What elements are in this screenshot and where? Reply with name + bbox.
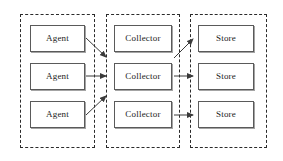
node-store-1-label: Store xyxy=(216,34,236,43)
node-store-1[interactable]: Store xyxy=(198,25,254,52)
node-agent-1-label: Agent xyxy=(46,34,69,43)
node-collector-3[interactable]: Collector xyxy=(114,101,172,128)
diagram-canvas: Agent Agent Agent Collector Collector Co… xyxy=(0,0,283,161)
node-store-2-label: Store xyxy=(216,72,236,81)
node-agent-3-label: Agent xyxy=(46,110,69,119)
node-collector-2-label: Collector xyxy=(125,72,160,81)
node-collector-3-label: Collector xyxy=(125,110,160,119)
node-agent-3[interactable]: Agent xyxy=(30,101,85,128)
node-agent-2[interactable]: Agent xyxy=(30,63,85,90)
node-collector-1[interactable]: Collector xyxy=(114,25,172,52)
node-collector-2[interactable]: Collector xyxy=(114,63,172,90)
node-agent-1[interactable]: Agent xyxy=(30,25,85,52)
node-store-3-label: Store xyxy=(216,110,236,119)
node-collector-1-label: Collector xyxy=(125,34,160,43)
node-store-3[interactable]: Store xyxy=(198,101,254,128)
node-store-2[interactable]: Store xyxy=(198,63,254,90)
node-agent-2-label: Agent xyxy=(46,72,69,81)
